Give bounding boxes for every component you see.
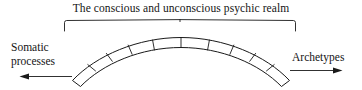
left-label-line-1: Somatic <box>11 41 49 53</box>
right-label: Archetypes <box>292 52 344 64</box>
psyche-diagram-figure: The conscious and unconscious psychic re… <box>0 0 362 90</box>
span-brace-icon <box>65 20 296 31</box>
left-arrow-icon <box>20 73 73 79</box>
left-label: Somatic processes <box>11 42 55 67</box>
left-label-line-2: processes <box>11 56 55 68</box>
right-arrow-icon <box>290 67 343 73</box>
